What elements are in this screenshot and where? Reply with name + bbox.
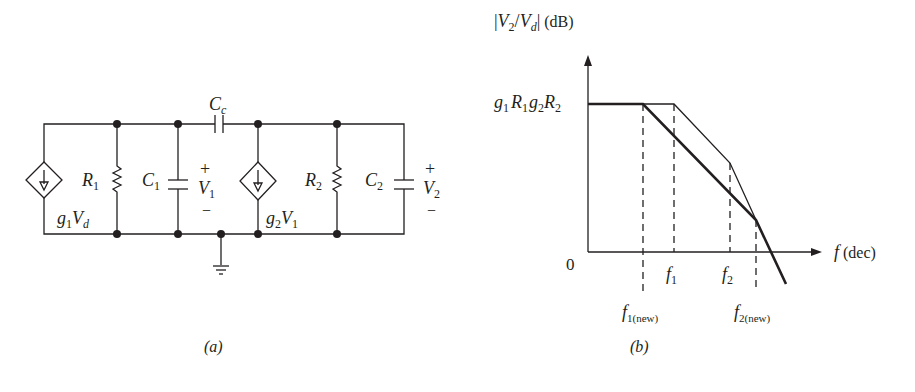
node-dot: [333, 230, 341, 238]
label-g1vd: g1Vd: [57, 208, 90, 231]
resistor-r2: [333, 124, 341, 234]
label-g2v1: g2V1: [266, 208, 298, 231]
label-r1: R1: [81, 170, 99, 193]
node-dot: [333, 120, 341, 128]
node-dot: [254, 120, 262, 128]
node-dot: [174, 230, 182, 238]
node-dot: [174, 120, 182, 128]
circuit-diagram: Cc R1 C1 + V1 − g1Vd g2V1 R2 C2 + V2 − (…: [26, 94, 440, 356]
label-r2: R2: [304, 170, 322, 193]
origin-label: 0: [566, 255, 575, 274]
tick-f1: f1: [666, 264, 677, 287]
v2-minus: −: [427, 202, 436, 219]
capacitor-c1: [168, 124, 188, 234]
node-dot: [113, 230, 121, 238]
x-axis-label: f (dec): [834, 242, 876, 262]
resistor-zigzag-icon: [113, 124, 121, 234]
node-dot: [254, 230, 262, 238]
dependent-current-source-1: [26, 162, 62, 198]
ground-symbol: [213, 234, 229, 274]
original-response-line: [588, 104, 756, 220]
x-axis-arrow-icon: [811, 248, 822, 256]
capacitor-c2: [394, 180, 414, 189]
y-axis-label: |V2/Vd| (dB): [494, 11, 574, 34]
label-c1: C1: [142, 170, 160, 193]
tick-f1-new: f1(new): [622, 302, 659, 325]
bottom-wire: [44, 189, 404, 234]
label-v1: V1: [198, 178, 215, 201]
resistor-r1: [113, 124, 121, 234]
bode-plot: |V2/Vd| (dB) g1R1g2R2 0 f (dec) f1 f2 f1…: [494, 11, 876, 356]
node-dot: [217, 230, 225, 238]
resistor-zigzag-icon: [333, 124, 341, 234]
label-v2: V2: [423, 178, 440, 201]
caption-a: (a): [204, 338, 223, 356]
v1-plus: +: [200, 159, 210, 179]
tick-f2-new: f2(new): [734, 302, 771, 325]
gain-label: g1R1g2R2: [494, 92, 561, 115]
v1-minus: −: [202, 202, 211, 219]
label-cc: Cc: [209, 94, 227, 117]
label-c2: C2: [365, 170, 383, 193]
top-wire-left: [44, 124, 215, 162]
v2-plus: +: [425, 159, 435, 179]
tick-f2: f2: [722, 264, 733, 287]
figure-canvas: Cc R1 C1 + V1 − g1Vd g2V1 R2 C2 + V2 − (…: [0, 0, 915, 392]
node-dot: [113, 120, 121, 128]
y-axis-arrow-icon: [584, 55, 592, 66]
caption-b: (b): [630, 338, 649, 356]
